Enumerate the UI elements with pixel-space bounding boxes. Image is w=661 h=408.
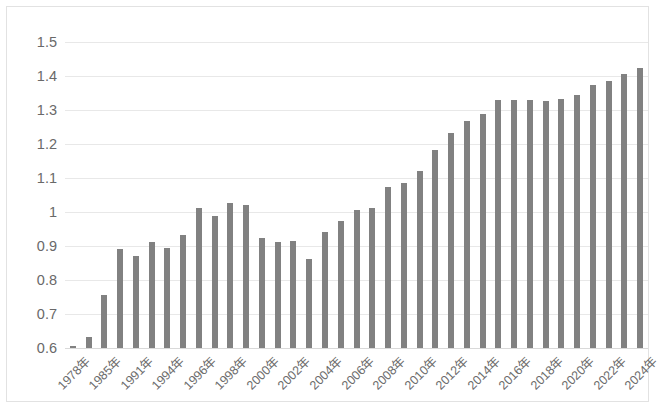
bar [574,95,580,348]
bar [243,205,249,348]
bar [417,171,423,348]
bar [527,100,533,348]
y-axis-tick-label: 0.9 [37,238,57,254]
x-axis-tick-label: 2022年 [588,351,630,393]
y-axis-tick-label: 1.1 [37,170,57,186]
bar [338,221,344,349]
x-axis-tick-label: 2004年 [304,351,346,393]
y-axis-tick-label: 1 [49,204,57,220]
bar [558,99,564,348]
x-axis-tick-label: 2016年 [493,351,535,393]
bar [590,85,596,349]
bar [621,74,627,348]
x-axis-tick-label: 1996年 [178,351,220,393]
bar [369,208,375,348]
bar [322,232,328,348]
bar [275,242,281,348]
bar [385,187,391,348]
x-axis-tick-label: 1991年 [115,351,157,393]
x-axis: 1978年1985年1991年1994年1996年1998年2000年2002年… [65,351,661,408]
x-axis-tick-label: 2020年 [556,351,598,393]
bar [259,238,265,349]
x-axis-tick-label: 1985年 [84,351,126,393]
y-axis-tick-label: 0.8 [37,272,57,288]
y-axis-tick-label: 1.3 [37,102,57,118]
y-axis: 1.51.41.31.21.110.90.80.70.6 [7,7,65,401]
bar [354,210,360,348]
x-axis-tick-label: 2024年 [619,351,661,393]
x-axis-tick-label: 1998年 [210,351,252,393]
bar [196,208,202,348]
bar [543,101,549,348]
x-axis-tick-label: 2002年 [273,351,315,393]
plot-area [65,42,648,348]
x-axis-tick-label: 2018年 [525,351,567,393]
plot-frame: 1.51.41.31.21.110.90.80.70.6 1978年1985年1… [6,6,649,402]
x-axis-tick-label: 2000年 [241,351,283,393]
bar [101,295,107,348]
bar [448,133,454,348]
bar [86,337,92,348]
bar [495,100,501,348]
x-axis-tick-label: 2012年 [430,351,472,393]
y-axis-tick-label: 1.4 [37,68,57,84]
bar [212,216,218,348]
bar [606,81,612,348]
y-axis-tick-label: 1.5 [37,34,57,50]
x-axis-tick-label: 2006年 [336,351,378,393]
bar [290,241,296,348]
bar [149,242,155,348]
x-axis-tick-label: 2014年 [462,351,504,393]
y-axis-tick-label: 0.7 [37,306,57,322]
x-axis-tick-label: 1994年 [147,351,189,393]
gridline [65,42,648,43]
bar [133,256,139,348]
x-axis-tick-label: 2010年 [399,351,441,393]
bar [637,68,643,349]
y-axis-tick-label: 0.6 [37,340,57,356]
bar [180,235,186,348]
bar [117,249,123,348]
bar [464,121,470,348]
bar [432,150,438,348]
bar [480,114,486,348]
gridline [65,76,648,77]
y-axis-tick-label: 1.2 [37,136,57,152]
bar [227,203,233,348]
bar [511,100,517,348]
bar [401,183,407,348]
bar [164,248,170,348]
x-axis-baseline [65,348,648,349]
x-axis-tick-label: 2008年 [367,351,409,393]
bar [306,259,312,348]
